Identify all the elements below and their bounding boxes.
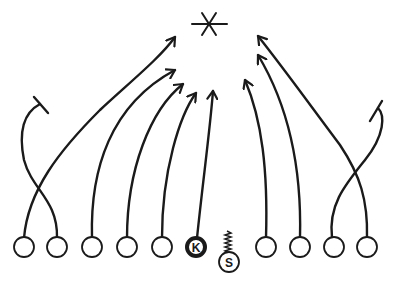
player-s: S xyxy=(219,252,239,272)
route-L2 xyxy=(127,84,183,238)
player-circle xyxy=(117,237,137,257)
kickoff-diagram: KS xyxy=(0,0,398,288)
asterisk-icon xyxy=(192,13,227,35)
player-circle xyxy=(357,237,377,257)
route-R3 xyxy=(258,36,367,238)
player-circle xyxy=(256,237,276,257)
route-R1 xyxy=(245,80,266,238)
player-circle xyxy=(290,237,310,257)
player-l4 xyxy=(47,237,67,257)
player-r4 xyxy=(357,237,377,257)
player-r2 xyxy=(290,237,310,257)
player-label: S xyxy=(225,256,233,270)
player-l2 xyxy=(117,237,137,257)
route-K xyxy=(197,91,213,238)
player-circle xyxy=(152,237,172,257)
player-l3 xyxy=(82,237,102,257)
player-k: K xyxy=(187,238,205,256)
route-L4 xyxy=(24,37,175,238)
player-r3 xyxy=(324,237,344,257)
player-l1 xyxy=(152,237,172,257)
player-circle xyxy=(14,237,34,257)
player-label: K xyxy=(192,241,201,255)
route-L1 xyxy=(162,93,196,238)
player-circle xyxy=(82,237,102,257)
player-circle xyxy=(324,237,344,257)
player-l5 xyxy=(14,237,34,257)
route-S xyxy=(225,231,231,253)
player-circle xyxy=(47,237,67,257)
player-r1 xyxy=(256,237,276,257)
